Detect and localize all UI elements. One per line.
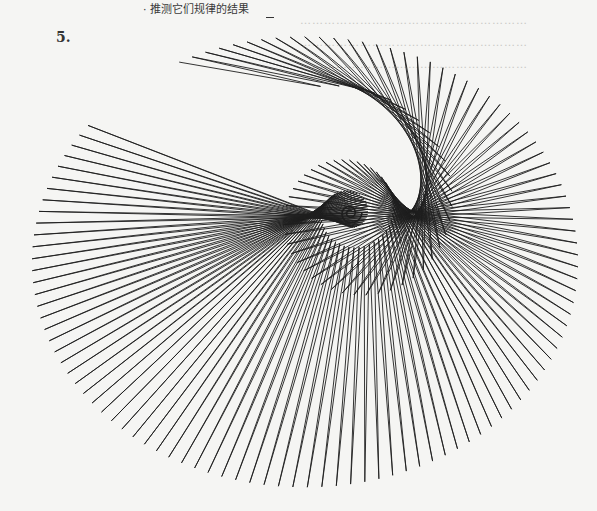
scanned-page: ………………………………………………… ………………………………………………… …: [0, 0, 597, 511]
spiral-string-art-figure: [0, 0, 597, 511]
zigzag-string-path: [32, 37, 578, 487]
